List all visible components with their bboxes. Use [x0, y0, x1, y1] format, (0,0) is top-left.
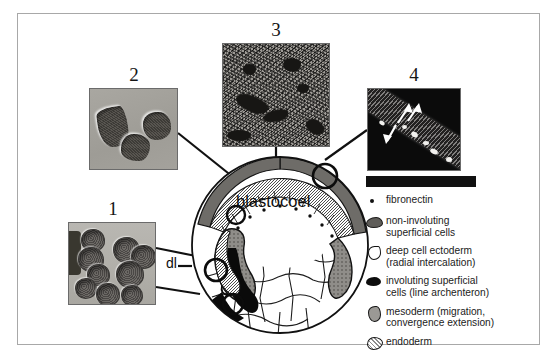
embryo-body — [192, 157, 368, 336]
legend-item-involuting-superficial-cells: involuting superficial cells (line arche… — [364, 274, 536, 298]
fibronectin-icon — [364, 193, 383, 208]
embryo-cross-section — [188, 152, 372, 338]
legend-item-label: endoderm — [386, 335, 432, 348]
deep-cell-ectoderm-icon — [364, 244, 383, 259]
legend-item-label: deep cell ectoderm (radial intercalation… — [386, 244, 475, 268]
legend-title-bar — [366, 176, 476, 187]
legend-item-label: involuting superficial cells (line arche… — [386, 274, 489, 298]
legend-item-deep-cell-ectoderm: deep cell ectoderm (radial intercalation… — [364, 244, 536, 268]
panel-2-migrating-cells — [89, 88, 178, 170]
legend-item-endoderm: endoderm — [364, 335, 536, 350]
panel-2-cell — [121, 134, 150, 161]
legend-item-fibronectin: fibronectin — [364, 193, 536, 208]
blastocoel-label: blastocoel — [236, 192, 310, 211]
panel-4-number: 4 — [399, 64, 429, 86]
figure-root: 1 2 3 4 — [0, 0, 556, 361]
panel-3-fibronectin-matrix — [222, 43, 330, 147]
panel-1-cell — [96, 283, 120, 305]
legend-item-non-involuting-superficial-cells: non-involuting superficial cells — [364, 214, 536, 238]
legend-list: fibronectin non-involuting superficial c… — [364, 193, 536, 356]
legend-item-label: non-involuting superficial cells — [386, 214, 455, 238]
legend-item-label: fibronectin — [386, 193, 433, 206]
non-involuting-cells-icon — [364, 214, 383, 229]
legend-item-label: mesoderm (migration, convergence extensi… — [386, 305, 494, 329]
dorsal-lip-label: dl — [166, 255, 177, 271]
panel-1-cell — [121, 285, 143, 305]
panel-1-deep-cells — [68, 222, 156, 305]
legend-item-mesoderm: mesoderm (migration, convergence extensi… — [364, 305, 536, 329]
panel-3-void — [243, 64, 256, 75]
mesoderm-icon — [364, 305, 383, 320]
panel-3-number: 3 — [261, 19, 291, 41]
panel-3-void — [227, 130, 251, 141]
panel-3-void — [297, 84, 309, 93]
legend-panel: fibronectin non-involuting superficial c… — [364, 176, 536, 338]
panel-1-cell — [75, 278, 97, 299]
panel-2-cell — [143, 112, 171, 140]
panel-1-cell — [116, 261, 144, 288]
endoderm-icon — [364, 335, 383, 350]
panel-4-arrows — [368, 89, 461, 171]
panel-3-void — [283, 58, 301, 72]
involuting-cells-icon — [364, 274, 383, 289]
panel-4-blastocoel-roof — [367, 88, 461, 171]
panel-1-number: 1 — [98, 198, 128, 220]
panel-2-number: 2 — [119, 64, 149, 86]
